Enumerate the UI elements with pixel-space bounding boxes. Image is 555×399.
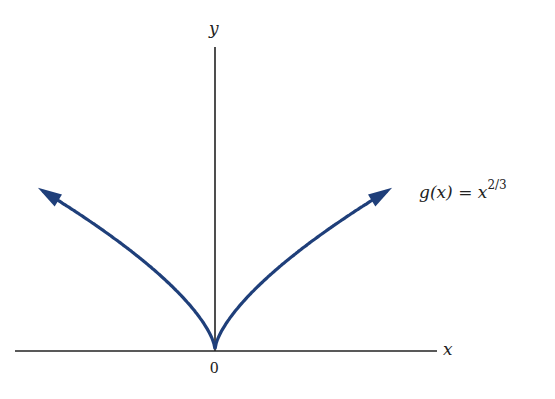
right-arrowhead-icon — [368, 188, 392, 207]
chart-container: y x 0 g(x) = x2/3 — [0, 0, 555, 399]
left-arrowhead-icon — [38, 188, 62, 207]
x-axis-label: x — [443, 339, 453, 359]
origin-label: 0 — [210, 358, 219, 378]
y-axis-label: y — [209, 18, 219, 38]
function-label: g(x) = x2/3 — [419, 180, 507, 202]
